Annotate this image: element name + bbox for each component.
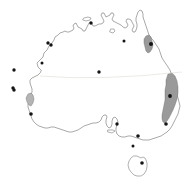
point-southcoast-nsw [164,122,168,126]
point-kimberley-inland [41,62,44,65]
tasmania [128,156,147,176]
point-cape-york-inland [123,40,126,43]
point-perth [12,88,15,91]
point-pilbara-coast [12,68,15,71]
point-alice-springs [97,70,100,73]
australia-map-canvas [0,0,191,185]
point-darwin [89,21,92,24]
point-southwest-cape [29,112,33,116]
point-melbourne [136,134,140,138]
point-spencer-gulf [115,122,118,125]
melville-island [83,17,91,21]
point-broome-north [46,41,49,44]
landmass-layer [28,10,180,176]
point-hobart [140,161,144,165]
point-cairns [149,42,153,46]
australia-mainland [28,10,180,140]
point-broome-south [49,43,52,46]
point-victoria-inland [132,145,135,148]
kangaroo-island [108,130,115,133]
distribution-map-figure [0,0,191,185]
point-sydney [168,94,172,98]
